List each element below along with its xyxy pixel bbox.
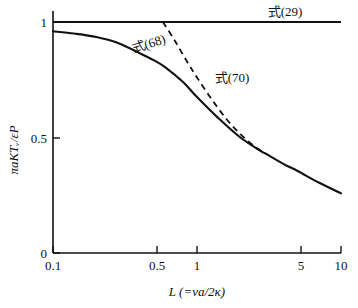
series-line-eq70	[163, 22, 266, 154]
x-tick-label-0-1: 0.1	[45, 258, 61, 273]
x-tick-label-0-5: 0.5	[149, 258, 165, 273]
y-tick-label-0-5: 0.5	[31, 131, 47, 146]
annotation-eq70: 式(70)	[215, 70, 250, 85]
figure-chart: 1 0.5 0 0.1 0.5 1 5 10 L (=va/2κ) πaKTᵥ/…	[0, 0, 358, 308]
x-axis-title: L (=va/2κ)	[168, 284, 225, 299]
y-tick-label-1: 1	[41, 15, 48, 30]
x-tick-label-5: 5	[298, 258, 305, 273]
series-line-eq68	[53, 31, 341, 193]
annotation-eq29: 式(29)	[268, 4, 303, 19]
x-tick-label-10: 10	[335, 258, 348, 273]
y-axis-title: πaKTᵥ/εP	[6, 125, 21, 174]
x-tick-label-1: 1	[194, 258, 201, 273]
annotation-eq68: 式(68)	[130, 31, 168, 56]
chart-canvas: 1 0.5 0 0.1 0.5 1 5 10 L (=va/2κ) πaKTᵥ/…	[0, 0, 358, 308]
